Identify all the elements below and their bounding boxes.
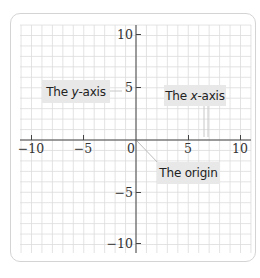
x-variable: x <box>191 89 198 103</box>
x-axis-callout-suffix: -axis <box>197 89 224 103</box>
x-tick-label-5: 5 <box>184 141 192 156</box>
y-tick-label-neg10: −10 <box>107 236 133 251</box>
y-variable: y <box>72 85 79 99</box>
x-axis-callout-prefix: The <box>165 89 190 103</box>
y-axis-callout-suffix: -axis <box>78 85 105 99</box>
y-axis-callout-prefix: The <box>46 85 71 99</box>
y-axis-callout: The y-axis <box>42 80 110 103</box>
x-tick-label-10: 10 <box>232 141 248 156</box>
x-axis-callout: The x-axis <box>164 85 226 106</box>
coordinate-plane: −10 −5 0 5 10 10 5 −5 −10 <box>0 0 260 278</box>
y-tick-label-5: 5 <box>125 80 133 95</box>
y-tick-label-10: 10 <box>117 27 133 42</box>
x-tick-label-neg5: −5 <box>74 141 92 156</box>
origin-label-zero: 0 <box>127 141 135 156</box>
y-tick-label-neg5: −5 <box>115 185 133 200</box>
x-tick-label-neg10: −10 <box>18 141 44 156</box>
origin-callout: The origin <box>157 162 220 184</box>
